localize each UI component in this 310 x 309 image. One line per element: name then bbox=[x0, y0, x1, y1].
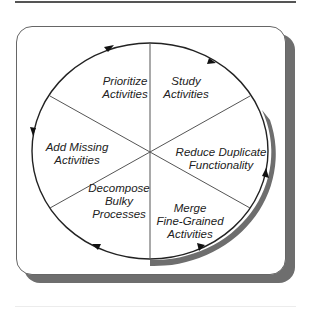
segment-label-line: Bulky bbox=[88, 195, 149, 208]
segment-label-line: Reduce Duplicate bbox=[176, 146, 267, 159]
segment-label-line: Processes bbox=[88, 208, 149, 221]
segment-label-line: Activities bbox=[46, 154, 109, 167]
segment-merge: Merge Fine-Grained Activities bbox=[156, 202, 223, 241]
segment-label-line: Functionality bbox=[176, 159, 267, 172]
segment-label-line: Fine-Grained bbox=[156, 215, 223, 228]
segment-prioritize: Prioritize Activities bbox=[102, 75, 147, 101]
segment-label-line: Decompose bbox=[88, 182, 149, 195]
segment-label-line: Activities bbox=[163, 88, 208, 101]
segment-label-line: Activities bbox=[156, 228, 223, 241]
segment-decompose: Decompose Bulky Processes bbox=[88, 182, 149, 221]
segment-label-line: Add Missing bbox=[46, 141, 109, 154]
segment-study: Study Activities bbox=[163, 75, 208, 101]
segment-add: Add Missing Activities bbox=[46, 141, 109, 167]
segment-label-line: Study bbox=[163, 75, 208, 88]
segment-reduce: Reduce Duplicate Functionality bbox=[176, 146, 267, 172]
bottom-rule bbox=[15, 306, 296, 307]
segment-label-line: Prioritize bbox=[102, 75, 147, 88]
segment-label-line: Activities bbox=[102, 88, 147, 101]
segment-label-line: Merge bbox=[156, 202, 223, 215]
